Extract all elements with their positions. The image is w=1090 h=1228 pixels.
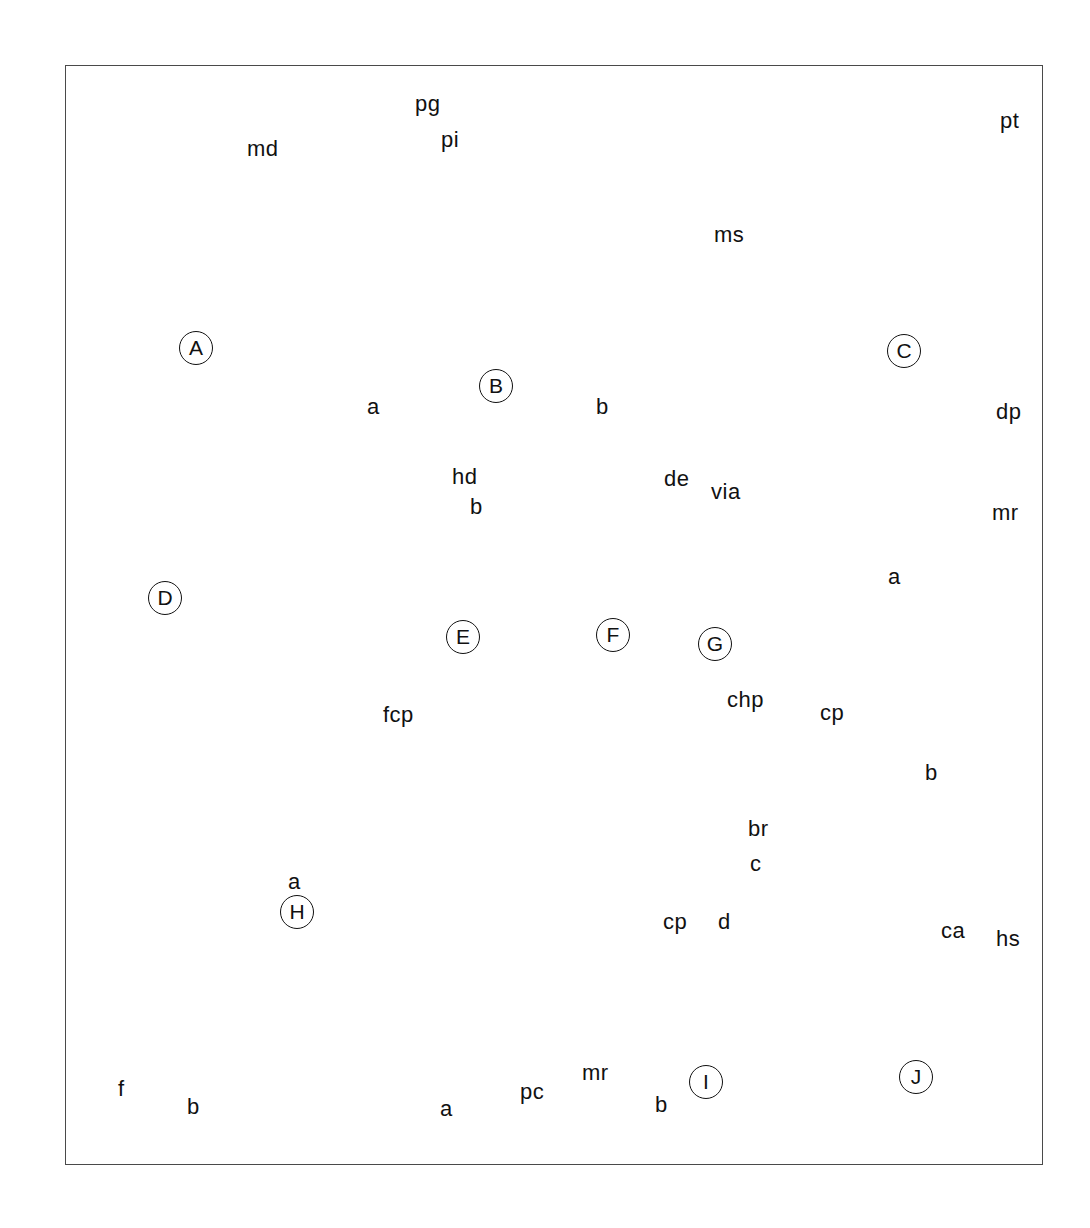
annotation-pc: pc <box>520 1081 544 1103</box>
annotation-br: br <box>748 818 769 840</box>
panel-letter-f: F <box>596 618 630 652</box>
annotation-mr-g: mr <box>992 502 1019 524</box>
annotation-fcp: fcp <box>383 704 414 726</box>
annotation-pg: pg <box>415 93 440 115</box>
panel-letter-a: A <box>179 331 213 365</box>
annotation-ca: ca <box>941 920 965 942</box>
sublabel-h-a: a <box>288 869 300 895</box>
panel-letter-j: J <box>899 1060 933 1094</box>
panel-letter-c: C <box>887 334 921 368</box>
annotation-ms: ms <box>714 224 744 246</box>
sublabel-i-a: a <box>440 1096 452 1122</box>
annotation-md: md <box>247 138 279 160</box>
annotation-d: d <box>718 911 731 933</box>
illustration-plate: md pg pi ms pt hd b de via dp mr fcp chp… <box>0 0 1090 1228</box>
panel-letter-e: E <box>446 620 480 654</box>
annotation-chp: chp <box>727 689 764 711</box>
annotation-dp: dp <box>996 401 1021 423</box>
panel-letter-g: G <box>698 627 732 661</box>
annotation-cp-i: cp <box>663 911 687 933</box>
annotation-b: b <box>470 496 483 518</box>
panel-letter-i: I <box>689 1065 723 1099</box>
annotation-mr-i: mr <box>582 1062 609 1084</box>
annotation-pi: pi <box>441 129 459 151</box>
sublabel-g-a: a <box>888 564 900 590</box>
annotation-hd: hd <box>452 466 477 488</box>
sublabel-g-b: b <box>925 760 937 786</box>
sublabel-b-b: b <box>596 394 608 420</box>
annotation-cp-g: cp <box>820 702 844 724</box>
sublabel-g-c: c <box>750 851 761 877</box>
sublabel-i-b: b <box>655 1092 667 1118</box>
sublabel-b-a: a <box>367 394 379 420</box>
annotation-via: via <box>711 481 741 503</box>
panel-letter-h: H <box>280 895 314 929</box>
annotation-pt: pt <box>1000 110 1019 132</box>
panel-letter-b: B <box>479 369 513 403</box>
annotation-hs: hs <box>996 928 1020 950</box>
annotation-f: f <box>118 1078 125 1100</box>
panel-letter-d: D <box>148 581 182 615</box>
annotation-de: de <box>664 468 689 490</box>
sublabel-h-b: b <box>187 1094 199 1120</box>
plate-frame <box>65 65 1043 1165</box>
